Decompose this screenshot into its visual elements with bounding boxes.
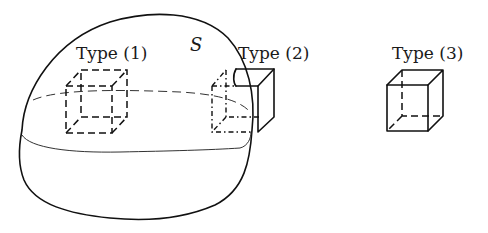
type-2-cube bbox=[212, 69, 274, 132]
type-2-label: Type (2) bbox=[238, 43, 309, 63]
surface-label: S bbox=[190, 34, 202, 55]
type-1-label: Type (1) bbox=[76, 43, 147, 63]
type-1-cube bbox=[66, 70, 127, 133]
diagram-canvas: S Type (1) Type (2) Type (3) bbox=[0, 0, 488, 233]
type-3-label: Type (3) bbox=[392, 43, 463, 63]
surface-equator-front bbox=[22, 132, 251, 152]
type-3-cube bbox=[387, 70, 443, 131]
